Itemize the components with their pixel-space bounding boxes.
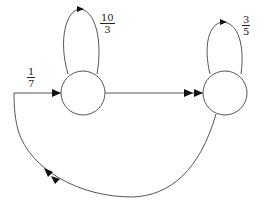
right-loop-label: 3 5: [242, 14, 250, 37]
left-loop-arrowhead-icon: [77, 6, 84, 12]
right-state-node: [203, 71, 247, 115]
left-self-loop-edge: [64, 9, 99, 74]
left-state-node: [61, 71, 105, 115]
arc-arrowhead-1-icon: [44, 168, 53, 177]
entry-label-numerator: 1: [27, 66, 35, 78]
double-arrowhead-2-icon: [194, 89, 203, 97]
left-loop-label-numerator: 10: [100, 12, 115, 24]
double-arrowhead-1-icon: [184, 89, 193, 97]
right-loop-arrowhead-icon: [220, 19, 227, 25]
left-loop-label: 10 3: [100, 12, 115, 35]
left-loop-label-denominator: 3: [100, 24, 115, 35]
right-self-loop-edge: [207, 22, 242, 74]
state-diagram: [0, 0, 264, 207]
right-loop-label-numerator: 3: [242, 14, 250, 26]
right-to-left-arc-edge: [14, 93, 216, 197]
entry-label-denominator: 7: [27, 78, 35, 89]
right-loop-label-denominator: 5: [242, 26, 250, 37]
entry-label: 1 7: [27, 66, 35, 89]
entry-arrowhead-icon: [52, 89, 61, 97]
